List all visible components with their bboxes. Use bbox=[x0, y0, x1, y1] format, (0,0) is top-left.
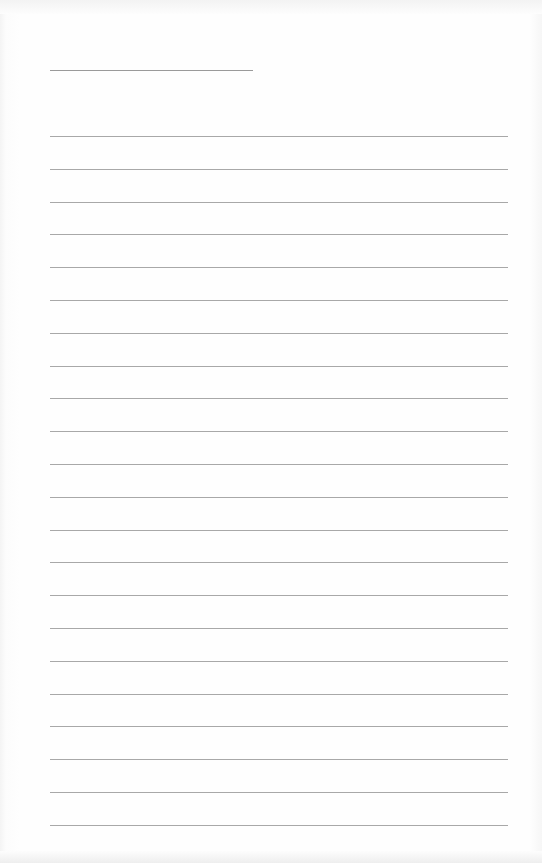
ruled-line bbox=[50, 202, 508, 203]
ruled-line bbox=[50, 464, 508, 465]
ruled-line bbox=[50, 333, 508, 334]
ruled-line bbox=[50, 759, 508, 760]
ruled-line bbox=[50, 366, 508, 367]
name-line bbox=[50, 70, 253, 71]
ruled-line bbox=[50, 825, 508, 826]
ruled-line bbox=[50, 300, 508, 301]
ruled-line bbox=[50, 267, 508, 268]
ruled-line bbox=[50, 792, 508, 793]
ruled-line bbox=[50, 398, 508, 399]
ruled-line bbox=[50, 628, 508, 629]
ruled-line bbox=[50, 234, 508, 235]
ruled-line bbox=[50, 595, 508, 596]
ruled-line bbox=[50, 497, 508, 498]
paper-page bbox=[0, 0, 542, 863]
ruled-line bbox=[50, 562, 508, 563]
ruled-line bbox=[50, 530, 508, 531]
scan-edge-bottom bbox=[0, 851, 542, 863]
scan-edge-top bbox=[0, 0, 542, 14]
ruled-line bbox=[50, 169, 508, 170]
ruled-line bbox=[50, 661, 508, 662]
ruled-line bbox=[50, 726, 508, 727]
ruled-line bbox=[50, 694, 508, 695]
ruled-line bbox=[50, 431, 508, 432]
ruled-line bbox=[50, 136, 508, 137]
